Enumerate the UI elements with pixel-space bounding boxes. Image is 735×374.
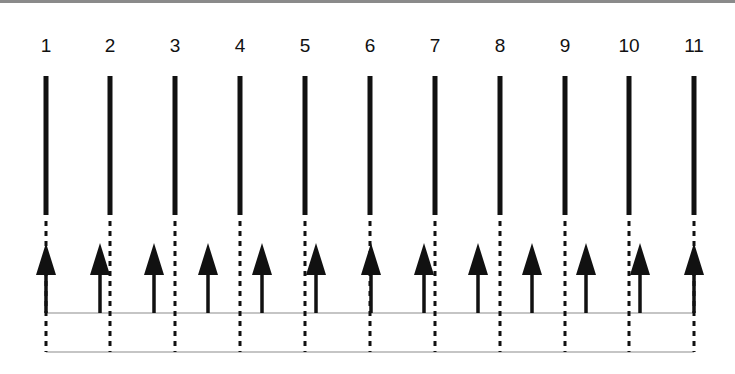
- diagram-canvas: 1234567891011: [0, 0, 735, 374]
- line-label: 4: [235, 35, 246, 56]
- line-label: 11: [684, 35, 704, 56]
- arrow-up-icon: [576, 243, 596, 275]
- line-label: 8: [495, 35, 506, 56]
- line-label: 2: [105, 35, 116, 56]
- arrow-up-icon: [684, 243, 704, 275]
- line-label: 5: [300, 35, 311, 56]
- arrow-up-icon: [630, 243, 650, 275]
- line-label: 10: [618, 35, 639, 56]
- arrow-up-icon: [198, 243, 218, 275]
- arrow-up-icon: [90, 243, 110, 275]
- arrow-up-icon: [522, 243, 542, 275]
- arrow-up-icon: [36, 243, 56, 275]
- arrow-up-icon: [306, 243, 326, 275]
- arrow-up-icon: [414, 243, 434, 275]
- arrow-up-icon: [361, 243, 381, 275]
- arrow-up-icon: [144, 243, 164, 275]
- line-label: 6: [365, 35, 376, 56]
- arrow-up-icon: [252, 243, 272, 275]
- line-label: 1: [41, 35, 52, 56]
- line-label: 3: [170, 35, 181, 56]
- line-label: 7: [430, 35, 441, 56]
- line-label: 9: [560, 35, 571, 56]
- arrow-up-icon: [468, 243, 488, 275]
